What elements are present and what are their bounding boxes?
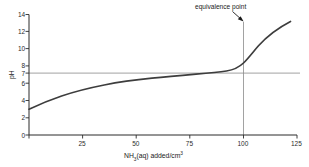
titration-curve — [29, 22, 291, 110]
x-tick-label-75: 75 — [186, 140, 193, 147]
x-tick-label-50: 50 — [132, 140, 139, 147]
y-axis-label: pH — [8, 70, 15, 79]
x-tick-label-125: 125 — [291, 140, 302, 147]
y-tick-label-2: 2 — [22, 114, 26, 121]
y-tick-label-4: 4 — [22, 97, 26, 104]
x-axis-label-pre: NH — [124, 152, 134, 159]
x-axis-label-mid: (aq) added/cm — [137, 152, 181, 159]
x-tick-label-100: 100 — [238, 140, 249, 147]
x-axis-ticks — [29, 135, 297, 139]
equivalence-point-arrow — [233, 12, 244, 22]
y-tick-label-7: 7 — [22, 70, 26, 77]
ph-titration-chart: 14 12 10 8 7 6 4 2 0 25 50 75 100 125 pH… — [0, 0, 309, 167]
y-tick-label-14: 14 — [18, 11, 25, 18]
equivalence-point-label: equivalence point — [195, 3, 246, 10]
x-tick-label-25: 25 — [79, 140, 86, 147]
y-tick-label-6: 6 — [22, 80, 26, 87]
y-tick-label-10: 10 — [18, 45, 25, 52]
chart-canvas — [0, 0, 309, 167]
x-axis-label-sup: 3 — [180, 151, 183, 156]
y-axis-ticks — [26, 15, 30, 136]
y-tick-label-0: 0 — [22, 132, 26, 139]
y-tick-label-12: 12 — [18, 28, 25, 35]
y-tick-label-8: 8 — [22, 62, 26, 69]
clipped-footer-text — [0, 160, 309, 167]
